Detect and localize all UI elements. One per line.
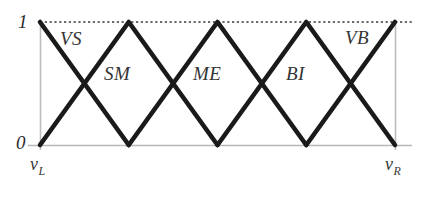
set-label-medium: ME bbox=[193, 64, 221, 83]
membership-function-figure: 1 0 VS SM ME BI VB vL vR bbox=[0, 0, 429, 199]
x-axis-right-endpoint-base: v bbox=[385, 154, 393, 174]
set-label-very-small: VS bbox=[60, 29, 82, 48]
x-axis-left-endpoint-base: v bbox=[30, 154, 38, 174]
x-axis-right-endpoint-subscript: R bbox=[393, 164, 401, 178]
y-axis-tick-one: 1 bbox=[18, 12, 28, 31]
set-label-small: SM bbox=[104, 64, 130, 83]
set-label-big: BI bbox=[286, 64, 305, 83]
set-label-very-big: VB bbox=[345, 28, 369, 47]
y-axis-tick-zero: 0 bbox=[16, 133, 26, 152]
x-axis-right-endpoint-label: vR bbox=[385, 155, 401, 177]
x-axis-left-endpoint-label: vL bbox=[30, 155, 45, 177]
x-axis-left-endpoint-subscript: L bbox=[38, 164, 45, 178]
